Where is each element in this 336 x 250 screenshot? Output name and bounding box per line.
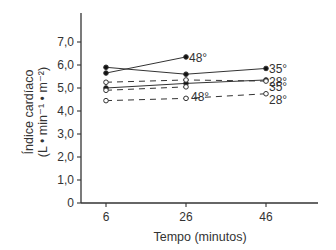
- open-marker: [104, 98, 109, 103]
- filled-marker: [104, 65, 109, 70]
- y-tick-label: 0: [67, 196, 74, 210]
- series-0: [104, 65, 269, 76]
- y-tick-label: 2,0: [57, 150, 74, 164]
- y-axis-units: (L • min⁻¹ • m⁻²): [36, 67, 50, 157]
- open-marker: [184, 78, 189, 83]
- x-axis-title: Tempo (minutos): [153, 230, 246, 244]
- y-tick-label: 6,0: [57, 58, 74, 72]
- open-marker: [104, 88, 109, 93]
- y-tick-label: 5,0: [57, 81, 74, 95]
- y-tick-label: 4,0: [57, 104, 74, 118]
- series-1: [104, 55, 189, 76]
- open-marker: [184, 85, 189, 90]
- y-tick-label: 3,0: [57, 127, 74, 141]
- open-marker: [184, 96, 189, 101]
- filled-marker: [184, 72, 189, 77]
- filled-marker: [184, 55, 189, 60]
- filled-marker: [104, 71, 109, 76]
- line-chart: 01,02,03,04,05,06,07,062646Tempo (minuto…: [0, 0, 336, 250]
- open-marker: [264, 79, 269, 84]
- y-axis-title: Índice cardíaco: [21, 70, 36, 155]
- chart: 01,02,03,04,05,06,07,062646Tempo (minuto…: [0, 0, 336, 250]
- series-5: [104, 91, 269, 103]
- series-end-label: 28°: [269, 93, 287, 107]
- open-marker: [264, 91, 269, 96]
- series-end-label: 48°: [189, 51, 207, 65]
- filled-marker: [264, 66, 269, 71]
- x-tick-label: 6: [103, 210, 110, 224]
- x-tick-label: 46: [259, 210, 273, 224]
- y-tick-label: 1,0: [57, 173, 74, 187]
- y-tick-label: 7,0: [57, 35, 74, 49]
- open-marker: [104, 80, 109, 85]
- x-tick-label: 26: [179, 210, 193, 224]
